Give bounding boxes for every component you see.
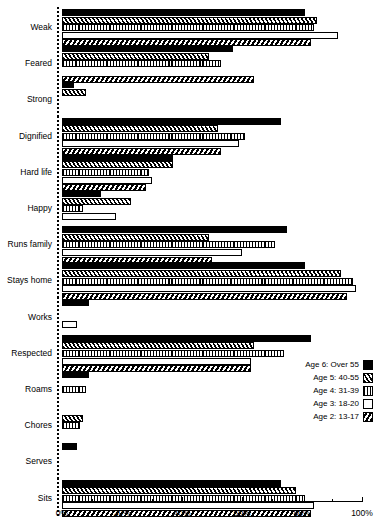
guide-dot <box>57 421 59 423</box>
guide-dot <box>57 79 59 81</box>
bar <box>62 213 116 220</box>
category-label-text: Happy <box>0 204 52 213</box>
bar <box>62 133 245 140</box>
guide-dot <box>57 309 59 311</box>
guide-dot <box>57 103 59 105</box>
bar <box>62 321 77 328</box>
guide-dot <box>57 11 59 13</box>
guide-dot <box>57 51 59 53</box>
guide-dot <box>57 47 59 49</box>
guide-dot <box>57 95 59 97</box>
guide-dot <box>57 35 59 37</box>
guide-dot <box>57 132 59 134</box>
guide-dot <box>57 494 59 496</box>
guide-dot <box>57 63 59 65</box>
guide-dot <box>57 268 59 270</box>
guide-dot <box>57 43 59 45</box>
guide-dot <box>57 478 59 480</box>
x-tick-label: 20% <box>113 508 130 518</box>
guide-dot <box>57 429 59 431</box>
guide-dot <box>57 401 59 403</box>
guide-dot <box>57 148 59 150</box>
guide-dot <box>57 301 59 303</box>
x-tick-label: 80% <box>293 508 310 518</box>
legend-item-label: Age 4: 31-39 <box>313 386 359 395</box>
x-tick-minor <box>272 499 273 502</box>
guide-dot <box>57 393 59 395</box>
guide-dot <box>57 333 59 335</box>
bar <box>62 293 347 300</box>
x-tick-minor <box>212 499 213 502</box>
guide-dot <box>57 288 59 290</box>
guide-dot <box>57 228 59 230</box>
legend-swatch <box>363 399 373 409</box>
guide-dot <box>57 156 59 158</box>
x-tick-label: 0% <box>56 508 68 518</box>
legend-item: Age 2: 13-17 <box>233 410 373 423</box>
x-tick-label: 100% <box>351 508 373 518</box>
guide-dot <box>57 276 59 278</box>
bar <box>62 285 356 292</box>
guide-dot <box>57 240 59 242</box>
guide-dot <box>57 413 59 415</box>
guide-dot <box>57 188 59 190</box>
bar <box>62 118 281 125</box>
guide-dot <box>57 280 59 282</box>
bar <box>62 278 353 285</box>
legend-swatch <box>363 412 373 422</box>
guide-dot <box>57 321 59 323</box>
horizontal-bar-chart: WeakFearedStrongDignifiedHard lifeHappyR… <box>0 0 381 528</box>
bar <box>62 443 77 450</box>
guide-dot <box>57 425 59 427</box>
legend-item: Age 4: 31-39 <box>233 384 373 397</box>
guide-dot <box>57 256 59 258</box>
category-label-text: Dignified <box>0 132 52 141</box>
legend-item-label: Age 6: Over 55 <box>305 360 359 369</box>
guide-dot <box>57 27 59 29</box>
legend-swatch <box>363 373 373 383</box>
guide-dot <box>57 317 59 319</box>
guide-dot <box>57 180 59 182</box>
guide-dot <box>57 136 59 138</box>
guide-dot <box>57 437 59 439</box>
guide-dot <box>57 144 59 146</box>
guide-dot <box>57 381 59 383</box>
bar <box>62 241 275 248</box>
guide-dot <box>57 502 59 504</box>
bar <box>62 140 239 147</box>
bar <box>62 60 221 67</box>
guide-dot <box>57 445 59 447</box>
bar <box>62 9 305 16</box>
bar <box>62 226 287 233</box>
bar <box>62 422 80 429</box>
legend-item-label: Age 2: 13-17 <box>313 412 359 421</box>
category-label-weak: Weak <box>0 23 55 32</box>
category-label-text: Chores <box>0 421 52 430</box>
legend-item: Age 6: Over 55 <box>233 358 373 371</box>
legend-item: Age 3: 18-20 <box>233 397 373 410</box>
guide-dot <box>57 361 59 363</box>
guide-dot <box>57 176 59 178</box>
x-tick-minor <box>152 499 153 502</box>
guide-dot <box>57 164 59 166</box>
guide-dot <box>57 71 59 73</box>
bar <box>62 415 83 422</box>
guide-dot <box>57 232 59 234</box>
guide-dot <box>57 345 59 347</box>
guide-dot <box>57 200 59 202</box>
guide-dot <box>57 297 59 299</box>
guide-dot <box>57 184 59 186</box>
guide-dot <box>57 284 59 286</box>
x-tick-major <box>122 497 123 502</box>
guide-dot <box>57 236 59 238</box>
category-label-text: Hard life <box>0 168 52 177</box>
legend-swatch <box>363 386 373 396</box>
guide-dot <box>57 220 59 222</box>
category-label-works: Works <box>0 313 55 322</box>
guide-dot <box>57 482 59 484</box>
guide-dot <box>57 23 59 25</box>
guide-dot <box>57 369 59 371</box>
guide-dot <box>57 224 59 226</box>
guide-dot <box>57 337 59 339</box>
category-label-text: Sits <box>0 494 52 503</box>
